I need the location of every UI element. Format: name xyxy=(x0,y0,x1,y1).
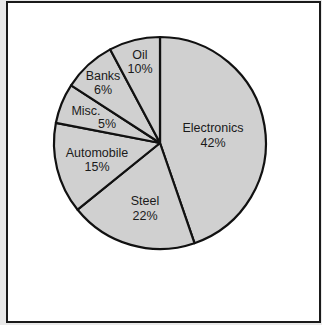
label-steel-name: Steel xyxy=(131,194,160,208)
label-misc-name: Misc. xyxy=(71,104,100,118)
label-oil-pct: 10% xyxy=(127,62,152,76)
label-electronics-pct: 42% xyxy=(200,136,225,150)
label-automobile-name: Automobile xyxy=(66,146,129,160)
label-automobile-pct: 15% xyxy=(84,160,109,174)
label-misc-pct: 5% xyxy=(98,117,116,131)
pie-chart: Electronics 42% Steel 22% Automobile 15%… xyxy=(0,0,322,325)
label-oil-name: Oil xyxy=(132,48,147,62)
label-banks-name: Banks xyxy=(86,69,121,83)
label-electronics-name: Electronics xyxy=(182,121,243,135)
label-banks-pct: 6% xyxy=(94,83,112,97)
label-steel-pct: 22% xyxy=(132,209,157,223)
